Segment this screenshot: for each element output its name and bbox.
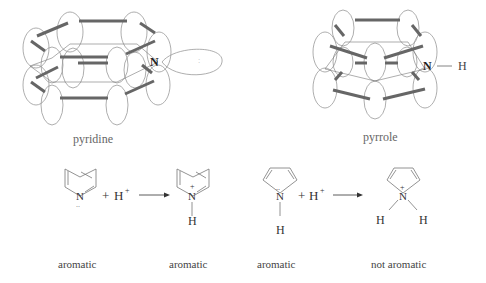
caption-pyridinium-product: aromatic bbox=[169, 258, 207, 270]
pyrrole-label: pyrrole bbox=[363, 130, 398, 145]
pyridine-lone-pair: : bbox=[198, 56, 200, 65]
pyrrole-orbital-diagram bbox=[313, 10, 437, 119]
pyrrolium-n: N bbox=[399, 190, 407, 202]
proton-charge-2: + bbox=[320, 186, 325, 195]
pyrrolium-h-left: H bbox=[376, 213, 385, 227]
pyridinium-h: H bbox=[188, 214, 197, 228]
pyrrole-reactant-n: N bbox=[276, 190, 284, 202]
pyridine-pi-bonds bbox=[31, 21, 155, 98]
pyridine-reactant-lone-pair: .. bbox=[76, 200, 80, 209]
caption-pyridine-reactant: aromatic bbox=[58, 258, 96, 270]
pyrrole-n-atom: N bbox=[423, 59, 432, 73]
reaction-arrow-1 bbox=[139, 193, 170, 198]
pyridine-n-atom: N bbox=[150, 55, 159, 69]
pyrrole-pi-bonds bbox=[330, 20, 425, 99]
reaction-arrow-2 bbox=[333, 193, 363, 198]
pyridine-label: pyridine bbox=[73, 132, 113, 147]
plus-sign-2: + bbox=[298, 188, 305, 203]
proton-1: H bbox=[114, 188, 123, 203]
pyrrole-h-atom: H bbox=[458, 59, 467, 73]
pyrrole-reactant-h: H bbox=[276, 223, 285, 237]
pyrrolium-h-right: H bbox=[419, 213, 428, 227]
pyridinium-n: N bbox=[188, 190, 196, 202]
caption-pyrrole-reactant: aromatic bbox=[257, 258, 295, 270]
plus-sign-1: + bbox=[102, 188, 109, 203]
proton-charge-1: + bbox=[125, 186, 130, 195]
caption-pyrrolium-product: not aromatic bbox=[371, 258, 426, 270]
proton-2: H bbox=[309, 188, 318, 203]
